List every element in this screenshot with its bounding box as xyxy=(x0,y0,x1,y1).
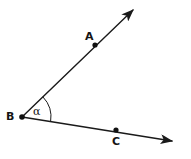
angle-label-alpha: α xyxy=(33,106,40,117)
point-label-b: B xyxy=(6,111,14,122)
ray-BC-group xyxy=(22,117,172,141)
ray-BA xyxy=(22,10,133,117)
point-label-a: A xyxy=(85,31,94,42)
point-A-dot xyxy=(92,42,97,47)
angle-diagram: A B C α xyxy=(0,0,191,159)
ray-BC xyxy=(22,117,172,141)
point-C-dot xyxy=(113,127,118,132)
ray-BA-group xyxy=(22,10,133,117)
point-label-c: C xyxy=(112,136,120,147)
point-B-dot xyxy=(19,114,25,120)
geometry-canvas xyxy=(0,0,191,159)
angle-arc xyxy=(43,97,51,122)
